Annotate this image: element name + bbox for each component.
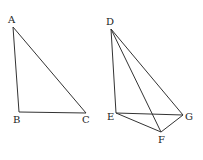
edge-fg [161,115,183,132]
label-b: B [13,114,20,125]
geometry-diagram: A B C D E F G [0,0,203,160]
triangle-abc: A B C [7,14,90,125]
edge-ab [13,27,19,112]
label-f: F [158,134,165,145]
label-e: E [107,111,114,122]
edge-de [111,29,116,113]
label-c: C [82,114,90,125]
edge-ef [116,113,161,132]
label-d: D [106,16,114,27]
edge-bc [19,112,86,113]
edge-eg [116,113,183,115]
label-g: G [185,111,193,122]
pyramid-defg: D E F G [106,16,193,145]
edge-ac [13,27,86,113]
label-a: A [7,14,16,25]
